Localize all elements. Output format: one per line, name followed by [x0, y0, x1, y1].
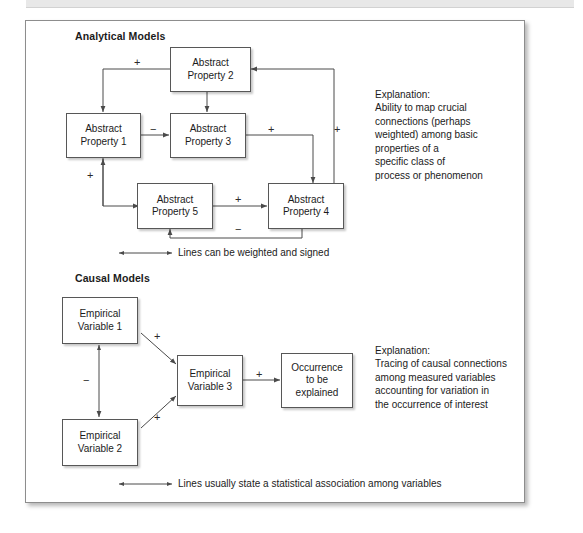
- node-label-line1: Occurrence: [291, 362, 343, 375]
- edge-ap3-to-ap4: [246, 135, 313, 183]
- node-abstract-property-2[interactable]: Abstract Property 2: [170, 47, 251, 92]
- node-empirical-variable-1[interactable]: Empirical Variable 1: [62, 297, 138, 344]
- node-label-line2: Variable 1: [78, 321, 122, 334]
- node-label-line1: Abstract: [85, 123, 122, 136]
- sign-ap3-to-ap4: +: [268, 124, 274, 135]
- sign-ap2-to-ap1: +: [134, 57, 140, 68]
- node-label-line1: Empirical: [79, 430, 120, 443]
- node-abstract-property-5[interactable]: Abstract Property 5: [137, 183, 213, 229]
- sign-ev2-to-ev3: +: [154, 412, 160, 423]
- node-label-line1: Empirical: [79, 308, 120, 321]
- node-label-line2: Property 3: [185, 136, 231, 149]
- node-label-line2: Variable 3: [188, 381, 232, 394]
- node-abstract-property-4[interactable]: Abstract Property 4: [268, 183, 344, 229]
- node-label-line1: Empirical: [189, 368, 230, 381]
- edge-ap1-to-ap5: [103, 158, 139, 206]
- sign-ev1-to-ev2: −: [83, 375, 89, 386]
- explanation-causal-body: Tracing of causal connections among meas…: [375, 357, 535, 411]
- explanation-analytical-body: Ability to map crucial connections (perh…: [375, 101, 525, 183]
- node-abstract-property-3[interactable]: Abstract Property 3: [170, 113, 246, 158]
- caption-causal: Lines usually state a statistical associ…: [178, 478, 441, 489]
- section-title-analytical: Analytical Models: [75, 30, 165, 42]
- node-occurrence-to-be-explained[interactable]: Occurrence to be explained: [281, 353, 353, 408]
- edge-ap2-to-ap1: [103, 69, 170, 112]
- node-abstract-property-1[interactable]: Abstract Property 1: [66, 113, 141, 158]
- node-label-line1: Abstract: [190, 123, 227, 136]
- sign-ap1-to-ap5: +: [87, 170, 93, 181]
- node-label-line2: Property 5: [152, 206, 198, 219]
- caption-analytical: Lines can be weighted and signed: [178, 247, 329, 258]
- node-label-line2: Variable 2: [78, 443, 122, 456]
- node-empirical-variable-2[interactable]: Empirical Variable 2: [62, 419, 138, 466]
- edge-ap4-to-ap2: [251, 69, 334, 183]
- figure-canvas: Analytical Models Abstract Property 2 Ab…: [0, 0, 583, 533]
- sign-ap5-to-ap4: +: [235, 194, 241, 205]
- node-label-line2: Property 2: [187, 70, 233, 83]
- node-empirical-variable-3[interactable]: Empirical Variable 3: [177, 355, 243, 406]
- explanation-causal-heading: Explanation:: [375, 344, 430, 358]
- sign-ev3-to-occurrence: +: [256, 369, 262, 380]
- section-title-causal: Causal Models: [75, 272, 150, 284]
- node-label-line1: Abstract: [192, 57, 229, 70]
- node-label-line1: Abstract: [288, 194, 325, 207]
- sign-ev1-to-ev3: +: [154, 331, 160, 342]
- sign-ap1-to-ap3: −: [150, 124, 156, 135]
- sign-ap4-to-ap2: +: [334, 124, 340, 135]
- node-label-line3: explained: [296, 387, 339, 400]
- node-label-line2: Property 1: [80, 136, 126, 149]
- node-label-line2: Property 4: [283, 206, 329, 219]
- node-label-line1: Abstract: [157, 194, 194, 207]
- sign-ap4-to-ap5: −: [235, 224, 241, 235]
- explanation-analytical-heading: Explanation:: [375, 88, 430, 102]
- node-label-line2: to be: [306, 374, 328, 387]
